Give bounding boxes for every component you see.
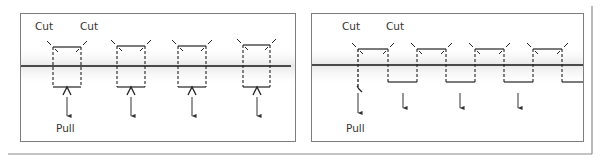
left-pull-label: Pull: [56, 122, 75, 134]
lift-chevron-icon: [127, 87, 135, 95]
cut-pull-diagram: Cut Cut Pull Cut Cut Pull: [0, 0, 609, 167]
lift-hook-icon: [357, 86, 362, 92]
left-panel: Cut Cut Pull: [21, 14, 296, 142]
lift-chevron-icon: [188, 87, 196, 95]
cut-mark-icon: [83, 41, 87, 45]
cut-mark-icon: [147, 40, 151, 44]
cut-mark-icon: [111, 40, 115, 44]
right-cut-label-1: Cut: [342, 20, 360, 32]
cut-mark-icon: [208, 40, 212, 44]
lift-chevron-icon: [63, 87, 71, 95]
lift-chevron-icon: [253, 87, 261, 95]
left-cut-label-2: Cut: [80, 20, 98, 32]
cut-mark-icon: [272, 39, 276, 43]
right-pull-label: Pull: [346, 122, 365, 134]
right-panel: Cut Cut Pull: [312, 14, 584, 142]
right-cut-label-2: Cut: [386, 20, 404, 32]
cut-mark-icon: [47, 41, 51, 45]
cut-mark-icon: [172, 40, 176, 44]
left-cut-label-1: Cut: [35, 20, 53, 32]
cut-mark-icon: [237, 39, 241, 43]
